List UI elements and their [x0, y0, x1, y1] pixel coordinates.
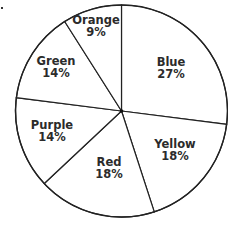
slice-percent: 27% [157, 67, 185, 81]
slice-label-green: Green14% [37, 54, 76, 80]
slice-percent: 18% [161, 149, 189, 163]
slice-percent: 18% [95, 167, 123, 181]
slice-label-blue: Blue27% [157, 55, 186, 81]
slice-percent: 9% [86, 25, 106, 39]
pie-chart: Blue27%Yellow18%Red18%Purple14%Green14%O… [0, 0, 228, 231]
slice-percent: 14% [38, 130, 66, 144]
slice-percent: 14% [42, 66, 70, 80]
slice-label-red: Red18% [95, 155, 123, 181]
pie-center-dot [120, 109, 124, 113]
